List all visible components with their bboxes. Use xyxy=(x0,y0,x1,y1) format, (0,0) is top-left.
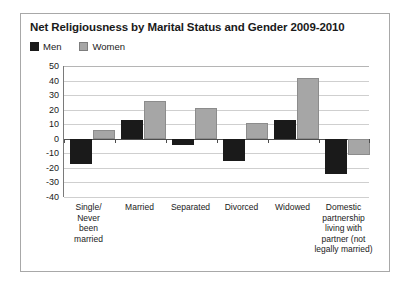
bar-men xyxy=(172,139,194,145)
x-axis-label: Domesticpartnershipliving withpartner (n… xyxy=(312,202,375,255)
legend-item-men: Men xyxy=(30,41,61,52)
bar-group xyxy=(268,66,319,197)
bar-men xyxy=(325,139,347,174)
bar-group xyxy=(217,66,268,197)
y-axis: 50403020100-10-20-30-40 xyxy=(33,66,59,197)
y-tick-label: 10 xyxy=(49,119,59,129)
legend-label-men: Men xyxy=(43,41,61,52)
bar-women xyxy=(297,78,319,139)
legend-item-women: Women xyxy=(79,41,125,52)
chart-legend: Men Women xyxy=(30,41,125,52)
bar-women xyxy=(246,123,268,139)
x-axis-labels: Single/NeverbeenmarriedMarriedSeparatedD… xyxy=(63,202,369,268)
plot-area xyxy=(63,66,369,197)
bar-women xyxy=(93,130,115,139)
y-tick-label: 40 xyxy=(49,76,59,86)
y-tick-label: -20 xyxy=(46,163,59,173)
bar-group xyxy=(115,66,166,197)
y-tick-label: -30 xyxy=(46,177,59,187)
x-tick-mark xyxy=(369,139,370,143)
gridline xyxy=(64,197,369,198)
y-tick-label: -10 xyxy=(46,148,59,158)
x-tick-mark xyxy=(217,139,218,143)
bar-women xyxy=(144,101,166,139)
plot-wrapper: 50403020100-10-20-30-40 xyxy=(63,66,369,197)
bar-women xyxy=(348,139,370,155)
y-tick-label: 20 xyxy=(49,105,59,115)
bar-women xyxy=(195,108,217,139)
women-swatch-icon xyxy=(79,42,88,51)
bar-group xyxy=(64,66,115,197)
bar-men xyxy=(121,120,143,139)
y-tick-label: 30 xyxy=(49,90,59,100)
bar-men xyxy=(223,139,245,161)
bars-layer xyxy=(64,66,369,197)
chart-title: Net Religiousness by Marital Status and … xyxy=(30,21,345,33)
chart-figure: Net Religiousness by Marital Status and … xyxy=(20,13,390,272)
y-tick-label: -40 xyxy=(46,192,59,202)
legend-label-women: Women xyxy=(92,41,125,52)
x-tick-mark xyxy=(64,139,65,143)
bar-group xyxy=(319,66,370,197)
bar-men xyxy=(274,120,296,139)
x-tick-mark xyxy=(268,139,269,143)
bar-group xyxy=(166,66,217,197)
x-tick-mark xyxy=(319,139,320,143)
bar-men xyxy=(70,139,92,164)
x-tick-mark xyxy=(115,139,116,143)
x-tick-mark xyxy=(166,139,167,143)
y-tick-label: 0 xyxy=(54,134,59,144)
men-swatch-icon xyxy=(30,42,39,51)
y-tick-label: 50 xyxy=(49,61,59,71)
